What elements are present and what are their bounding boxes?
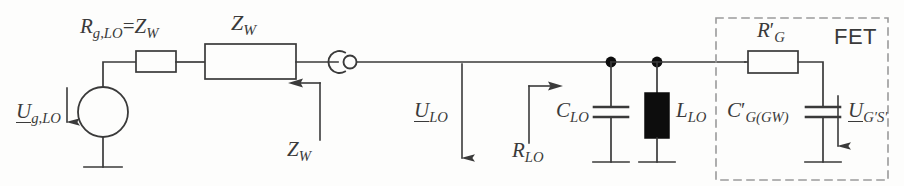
label-inductor-llo-sub: LO bbox=[688, 109, 707, 125]
gate-resistor-body bbox=[748, 51, 798, 73]
coax-connector-circle bbox=[344, 56, 357, 69]
source-top-lead bbox=[103, 62, 136, 87]
label-zw-arrow-sub: W bbox=[299, 148, 311, 164]
label-gate-source-voltage-sub: G′S′ bbox=[863, 109, 887, 125]
label-input-resistance-sub: LO bbox=[525, 149, 544, 165]
label-series-resistor-sub: g,LO bbox=[93, 25, 123, 41]
label-inductor-llo: LLO bbox=[676, 100, 706, 121]
label-inductor-llo-main: L bbox=[676, 98, 688, 122]
label-source-voltage-main: U bbox=[16, 102, 31, 123]
label-transmission-line-sub: W bbox=[243, 21, 256, 38]
label-fet-block: FET bbox=[834, 24, 877, 50]
label-gate-capacitor-sub: G(GW) bbox=[745, 109, 788, 125]
label-series-resistor-second-sub: W bbox=[146, 25, 158, 41]
label-zw-arrow-main: Z bbox=[287, 137, 299, 161]
ac-source-circle bbox=[78, 87, 128, 137]
label-line-voltage: ULO bbox=[414, 100, 448, 122]
label-gate-source-voltage: UG′S′ bbox=[848, 100, 888, 122]
llo-body bbox=[645, 93, 669, 138]
label-gate-capacitor-main: C bbox=[727, 98, 741, 122]
label-gate-resistor: R′G bbox=[757, 20, 785, 41]
label-transmission-line-main: Z bbox=[231, 10, 243, 35]
label-series-resistor-second-main: Z bbox=[134, 14, 146, 38]
label-capacitor-clo-main: C bbox=[556, 98, 570, 122]
gate-resistor-right-lead bbox=[798, 62, 823, 106]
transmission-line-body bbox=[205, 44, 296, 79]
label-line-voltage-main: U bbox=[414, 101, 429, 122]
label-gate-resistor-main: R bbox=[757, 18, 770, 42]
label-transmission-line: ZW bbox=[231, 12, 256, 34]
label-gate-capacitor: C′G(GW) bbox=[727, 100, 789, 121]
label-capacitor-clo: CLO bbox=[556, 100, 589, 121]
label-series-resistor: Rg,LO=ZW bbox=[80, 16, 158, 37]
circuit-diagram-canvas: Ug,LO Rg,LO=ZW ZW ZW ULO RLO CLO LLO R′G… bbox=[0, 0, 904, 186]
label-source-voltage-sub: g,LO bbox=[31, 110, 61, 126]
label-zw-arrow: ZW bbox=[287, 139, 311, 160]
label-gate-source-voltage-main: U bbox=[848, 101, 863, 122]
label-input-resistance: RLO bbox=[512, 140, 544, 161]
series-resistor-body bbox=[136, 51, 176, 72]
label-series-resistor-equals: = bbox=[123, 14, 135, 38]
label-series-resistor-main: R bbox=[80, 14, 93, 38]
label-source-voltage: Ug,LO bbox=[16, 101, 61, 123]
label-capacitor-clo-sub: LO bbox=[570, 109, 589, 125]
label-line-voltage-sub: LO bbox=[429, 109, 448, 125]
label-gate-resistor-sub: G bbox=[774, 29, 785, 45]
label-input-resistance-main: R bbox=[512, 138, 525, 162]
